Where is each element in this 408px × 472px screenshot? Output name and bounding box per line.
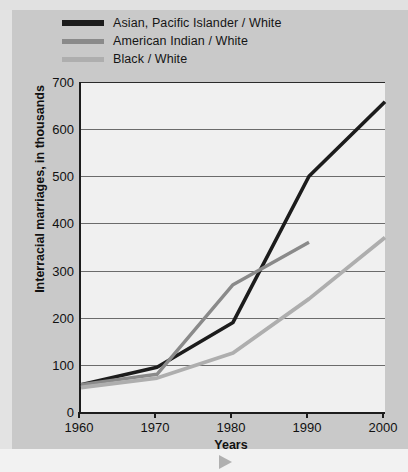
x-tick-label-1960: 1960: [54, 420, 104, 435]
x-tick-label-2000: 2000: [358, 420, 408, 435]
y-tick-label-400: 400: [34, 216, 74, 231]
y-tick-label-500: 500: [34, 169, 74, 184]
x-tick-label-1970: 1970: [130, 420, 180, 435]
x-tick-label-1980: 1980: [206, 420, 256, 435]
x-tick-1960: [78, 412, 80, 418]
chart-page: Asian, Pacific Islander / White American…: [0, 0, 408, 472]
x-axis-title: Years: [79, 438, 383, 452]
legend-label-american-indian: American Indian / White: [113, 34, 248, 48]
series-line-asian: [81, 102, 385, 385]
series-line-black: [81, 238, 385, 388]
x-tick-1990: [306, 412, 308, 418]
legend-item-black: Black / White: [62, 50, 362, 68]
y-tick-label-0: 0: [34, 405, 74, 420]
y-tick-label-200: 200: [34, 310, 74, 325]
y-tick-label-300: 300: [34, 263, 74, 278]
y-axis-tick-labels: 0100200300400500600700: [28, 0, 74, 472]
y-tick-label-100: 100: [34, 357, 74, 372]
plot-lines: [81, 82, 385, 412]
chart-legend: Asian, Pacific Islander / White American…: [62, 14, 362, 68]
legend-item-asian: Asian, Pacific Islander / White: [62, 14, 362, 32]
x-tick-2000: [382, 412, 384, 418]
x-tick-label-1990: 1990: [282, 420, 332, 435]
x-tick-1980: [230, 412, 232, 418]
x-tick-1970: [154, 412, 156, 418]
plot-area: [79, 82, 385, 414]
page-left-margin: [0, 0, 12, 472]
y-tick-label-600: 600: [34, 122, 74, 137]
legend-item-american-indian: American Indian / White: [62, 32, 362, 50]
legend-label-asian: Asian, Pacific Islander / White: [113, 16, 281, 30]
legend-label-black: Black / White: [113, 52, 187, 66]
y-tick-label-700: 700: [34, 75, 74, 90]
scroll-arrow-icon[interactable]: [219, 455, 232, 469]
series-line-american_indian: [81, 242, 309, 384]
